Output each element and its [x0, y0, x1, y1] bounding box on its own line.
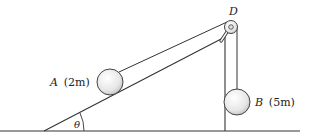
pulley-diagram: D A (2m) B (5m) θ: [0, 0, 309, 135]
label-d: D: [228, 5, 238, 18]
label-a: A (2m): [49, 76, 90, 89]
label-theta: θ: [74, 119, 80, 130]
pulley-axle: [229, 25, 234, 30]
ball-a: [97, 69, 123, 95]
angle-arc: [80, 113, 84, 131]
ball-b: [224, 89, 250, 115]
label-b: B (5m): [254, 96, 295, 109]
